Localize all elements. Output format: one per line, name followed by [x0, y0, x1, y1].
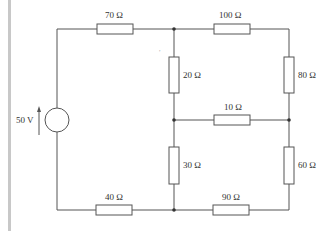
resistor-60: [284, 147, 294, 184]
junction-dot: [172, 208, 176, 212]
junction-dot: [172, 27, 176, 31]
label-40: 40 Ω: [105, 192, 123, 202]
label-100: 100 Ω: [219, 10, 241, 20]
resistor-10: [214, 115, 250, 125]
resistor-40: [96, 205, 132, 215]
label-90: 90 Ω: [222, 192, 240, 202]
resistor-80: [284, 57, 294, 93]
resistor-70: [97, 24, 133, 34]
voltage-source-icon: [45, 108, 69, 132]
stray-mark: ,: [159, 46, 161, 52]
arrow-up-icon: [37, 106, 41, 135]
label-30: 30 Ω: [183, 160, 201, 170]
label-70: 70 Ω: [105, 10, 123, 20]
junction-dot: [287, 118, 291, 122]
resistor-20: [169, 57, 179, 93]
resistor-100: [214, 24, 250, 34]
resistor-30: [169, 147, 179, 184]
junction-dot: [172, 118, 176, 122]
circuit-diagram: ,: [0, 0, 333, 231]
resistor-90: [213, 205, 249, 215]
label-80: 80 Ω: [298, 70, 316, 80]
label-10: 10 Ω: [224, 102, 242, 112]
label-source: 50 V: [16, 115, 34, 125]
label-60: 60 Ω: [298, 160, 316, 170]
label-20: 20 Ω: [183, 70, 201, 80]
